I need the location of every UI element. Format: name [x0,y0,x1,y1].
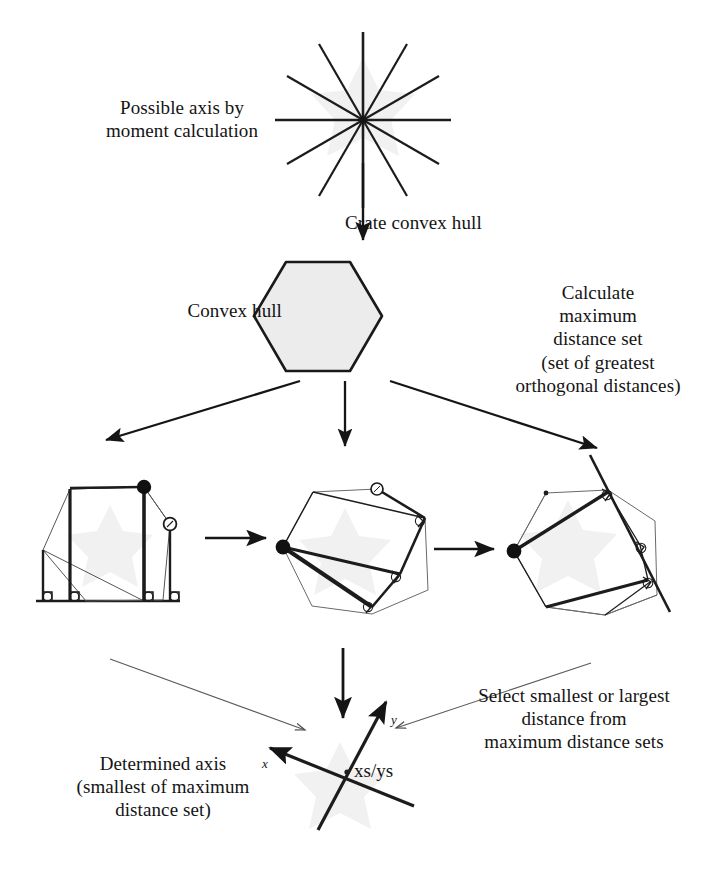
arrow-step1-to-axis-thin [110,659,305,730]
label-select-smallest-or-largest: Select smallest or largest distance from… [432,684,716,754]
label-determined-axis: Determined axis (smallest of maximum dis… [48,752,278,822]
label-axis-y: y [391,712,397,728]
pivot-vertex-marker-b [507,544,522,559]
diagram-canvas: Possible axis by moment calculation Crat… [0,0,722,893]
arrow-hull-to-step1 [106,381,300,440]
extreme-vertex-marker [137,480,151,494]
pivot-vertex-marker [276,540,291,555]
label-calculate-maximum-distance-set: Calculate maximum distance set (set of g… [487,281,709,397]
label-axis-x: x [262,756,268,772]
label-crate-convex-hull: Crate convex hull [345,211,555,234]
label-convex-hull: Convex hull [152,299,282,322]
label-possible-axis: Possible axis by moment calculation [76,96,288,142]
label-xs-ys: xs/ys [354,760,393,782]
